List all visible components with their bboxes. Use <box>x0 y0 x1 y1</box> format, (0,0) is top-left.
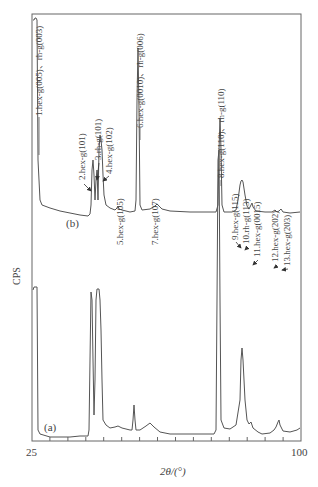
x-min-label: 25 <box>26 446 38 458</box>
annotation-3: 3.rh-g(101) <box>93 119 103 160</box>
annotation-6: 6.hex-g(0010)、rh-g(006) <box>135 33 145 128</box>
annotation-12: 12.hex-g(202) <box>270 211 280 262</box>
x-axis-title: 2θ/(°) <box>160 465 186 478</box>
curve-b <box>33 18 300 216</box>
peak-annotations: 1.hex-g(005)、rh-g(003) 6.hex-g(0010)、rh-… <box>34 26 292 266</box>
arrow-10 <box>245 247 248 250</box>
annotation-4: 4.hex-g(102) <box>104 127 114 174</box>
y-axis-title: CPS <box>11 267 22 285</box>
arrow-12 <box>274 266 277 268</box>
arrow-2 <box>84 184 91 191</box>
annotation-8: 8.hex-g(110)、rh-g(110) <box>216 88 226 178</box>
annotation-1: 1.hex-g(005)、rh-g(003) <box>34 26 44 116</box>
arrow-13 <box>282 269 288 270</box>
xrd-chart: (b) (a) 25 100 2θ/(°) CPS 1.hex-g(005)、r… <box>0 0 318 487</box>
x-max-label: 100 <box>291 446 308 458</box>
arrow-4 <box>103 176 109 181</box>
annotation-10: 10.rh-g(113) <box>241 199 251 244</box>
curve-a-label: (a) <box>44 421 57 434</box>
arrow-11 <box>253 260 258 265</box>
leader-lines <box>39 117 221 186</box>
annotation-7: 7.hex-g(107) <box>150 198 160 245</box>
curve-b-label: (b) <box>66 217 79 230</box>
annotation-11: 11.hex-g(0015) <box>252 202 262 257</box>
annotation-2: 2.hex-g(101) <box>77 133 87 180</box>
annotation-5: 5.hex-g(105) <box>115 198 125 245</box>
annotation-13: 13.hex-g(203) <box>282 215 292 266</box>
x-ticks <box>50 437 283 441</box>
annotation-9: 9.hex-g(115) <box>230 194 240 240</box>
curve-a <box>33 150 300 437</box>
